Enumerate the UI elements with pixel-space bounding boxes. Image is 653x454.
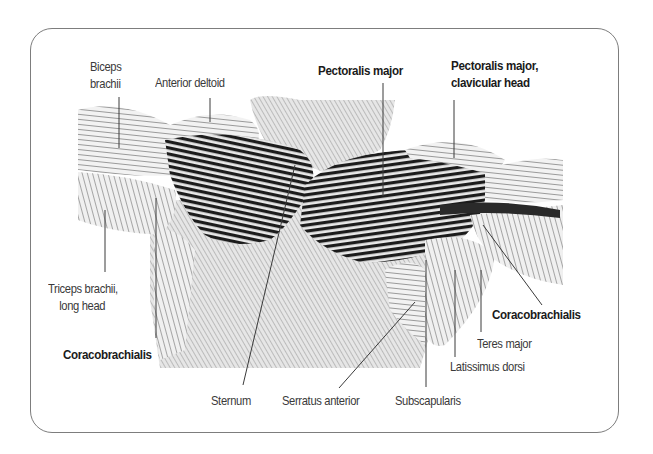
label-biceps-brachii: Biceps brachii [90,58,121,92]
label-pectoralis-major-clavicular-head: Pectoralis major, clavicular head [451,57,538,91]
label-sternum: Sternum [211,392,251,409]
label-latissimus-dorsi: Latissimus dorsi [450,358,525,375]
label-coracobrachialis-right: Coracobrachialis [492,306,581,323]
label-anterior-deltoid: Anterior deltoid [155,74,225,91]
label-triceps-brachii-long-head: Triceps brachii, long head [48,280,118,314]
label-serratus-anterior: Serratus anterior [282,392,359,409]
label-pectoralis-major: Pectoralis major [318,62,403,79]
left-arm-triceps [78,172,176,235]
right-latissimus [425,237,495,346]
label-teres-major: Teres major [477,335,532,352]
label-subscapularis: Subscapularis [395,392,461,409]
label-coracobrachialis-left: Coracobrachialis [63,346,152,363]
